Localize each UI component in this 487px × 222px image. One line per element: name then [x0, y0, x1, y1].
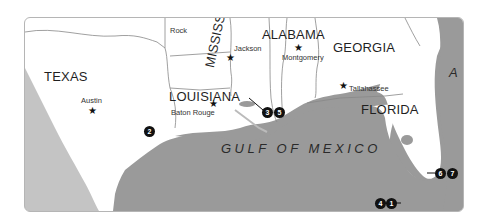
state-label-florida: FLORIDA	[361, 103, 419, 116]
state-label-louisiana: LOUISIANA	[169, 90, 240, 103]
marker-1[interactable]: 1	[386, 198, 397, 209]
lake-pontchartrain	[239, 101, 255, 107]
mexico-land	[25, 68, 99, 211]
water-label-gulf-of-mexico: GULF OF MEXICO	[221, 142, 381, 155]
capital-star-icon-jackson: ★	[226, 53, 235, 63]
map-frame: TEXAS LOUISIANA MISSISSIPPI ALABAMA GEOR…	[24, 17, 464, 212]
marker-6[interactable]: 6	[435, 168, 446, 179]
state-label-georgia: GEORGIA	[333, 41, 395, 54]
city-label-austin: Austin	[81, 97, 102, 105]
marker-4[interactable]: 4	[375, 198, 386, 209]
lake-okeechobee	[401, 135, 413, 145]
city-label-baton-rouge: Baton Rouge	[171, 109, 215, 117]
capital-star-icon-baton-rouge: ★	[209, 99, 218, 109]
capital-star-icon-austin: ★	[88, 106, 97, 116]
state-label-alabama: ALABAMA	[262, 28, 325, 41]
city-label-montgomery: Montgomery	[282, 54, 324, 62]
city-label-little-rock: Rock	[170, 27, 187, 35]
marker-5[interactable]: 5	[274, 107, 285, 118]
capital-star-icon-montgomery: ★	[294, 43, 303, 53]
water-label-atlantic: A	[449, 66, 458, 79]
marker-2[interactable]: 2	[144, 126, 155, 137]
marker-7[interactable]: 7	[447, 168, 458, 179]
city-label-jackson: Jackson	[234, 45, 262, 53]
city-label-tallahassee: Tallahassee	[349, 85, 389, 93]
state-label-texas: TEXAS	[44, 70, 88, 83]
capital-star-icon-tallahassee: ★	[339, 81, 348, 91]
marker-3[interactable]: 3	[262, 107, 273, 118]
